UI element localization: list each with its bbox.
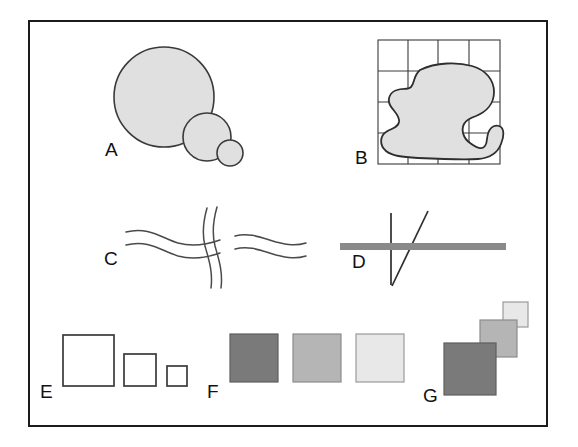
panel-label-f: F: [207, 382, 219, 401]
panel-label-a: A: [105, 140, 118, 159]
figure-root: A B: [0, 0, 578, 447]
figure-border-box: [28, 20, 548, 427]
panel-label-c: C: [104, 249, 118, 268]
panel-label-g: G: [423, 386, 438, 405]
panel-label-e: E: [40, 382, 53, 401]
panel-label-b: B: [355, 148, 368, 167]
panel-label-d: D: [352, 252, 366, 271]
